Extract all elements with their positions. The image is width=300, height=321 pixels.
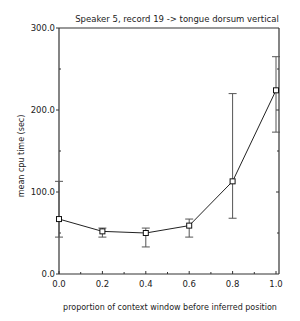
line-chart: Speaker 5, record 19 -> tongue dorsum ve… [0,0,300,321]
data-point-marker [274,88,279,93]
data-point-marker [187,223,192,228]
data-line [59,90,276,233]
x-axis-label: proportion of context window before infe… [63,303,277,312]
y-tick-label: 300.0 [31,23,55,33]
data-point-marker [230,179,235,184]
x-tick-label: 0.4 [139,279,153,289]
data-point-marker [143,231,148,236]
y-tick-label: 100.0 [31,187,55,197]
y-tick-label: 200.0 [31,105,55,115]
chart-title: Speaker 5, record 19 -> tongue dorsum ve… [75,14,279,24]
x-tick-label: 0.6 [182,279,196,289]
x-tick-label: 0.0 [52,279,66,289]
x-tick-label: 0.8 [226,279,240,289]
data-point-marker [100,229,105,234]
x-tick-label: 0.2 [96,279,110,289]
y-tick-label: 0.0 [41,269,55,279]
y-axis-label: mean cpu time (sec) [17,115,26,198]
x-tick-label: 1.0 [269,279,283,289]
data-point-marker [57,217,62,222]
